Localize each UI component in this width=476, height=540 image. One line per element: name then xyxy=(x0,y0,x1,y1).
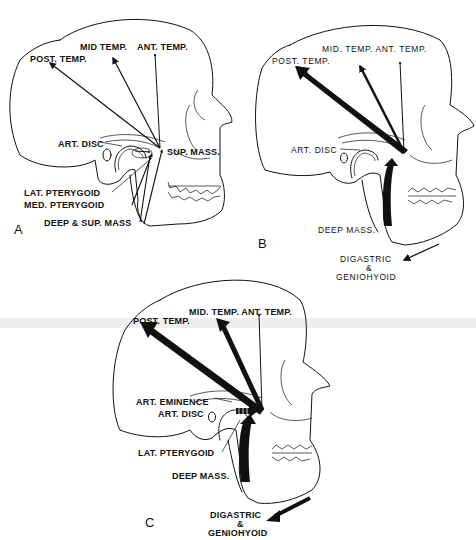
label-post-temp: POST. TEMP. xyxy=(30,54,87,64)
label-art-eminence: ART. EMINENCE xyxy=(136,397,209,407)
vector-lat-pterygoid xyxy=(135,151,150,152)
label-geniohyoid: GENIOHYOID xyxy=(208,528,268,538)
vector-digastric xyxy=(275,498,310,516)
label-mid-ant-temp: MID. TEMP. ANT. TEMP. xyxy=(189,307,292,317)
label-deep-sup-mass: DEEP & SUP. MASS xyxy=(44,218,131,228)
vector-deep-mass xyxy=(140,156,150,222)
label-digastric: DIGASTRIC xyxy=(210,510,262,520)
vector-deep-mass xyxy=(239,420,252,482)
label-mid-temp: MID TEMP. xyxy=(80,42,127,52)
panel-letter-b: B xyxy=(258,236,267,251)
leader-art-disc-b xyxy=(340,149,360,150)
vector-deep-mass xyxy=(383,164,394,226)
label-ant-temp: ANT. TEMP. xyxy=(137,42,188,52)
vector-post-temp xyxy=(50,63,160,148)
vector-mid-temp xyxy=(360,66,404,152)
label-deep-mass: DEEP MASS. xyxy=(318,225,376,235)
label-deep-mass: DEEP MASS. xyxy=(172,471,229,481)
vector-ant-temp xyxy=(259,314,262,410)
vector-ant-temp xyxy=(155,54,160,148)
vector-sup-mass xyxy=(144,150,162,224)
label-art-disc: ART. DISC xyxy=(158,409,204,419)
label-geniohyoid: GENIOHYOID xyxy=(336,272,396,282)
panel-a: POST. TEMP. MID TEMP. ANT. TEMP. ART. DI… xyxy=(10,19,232,237)
scan-band xyxy=(0,318,476,328)
label-art-disc: ART. DISC xyxy=(291,145,337,155)
label-mid-ant-temp: MID. TEMP. ANT. TEMP. xyxy=(322,44,427,54)
label-art-disc: ART. DISC xyxy=(58,139,104,149)
label-sup-mass: SUP. MASS. xyxy=(167,147,220,157)
label-post-temp: POST. TEMP. xyxy=(133,316,190,326)
arrowhead-deep-mass xyxy=(240,414,256,424)
panel-b: MID. TEMP. ANT. TEMP. POST. TEMP. ART. D… xyxy=(256,25,474,282)
vector-post-temp xyxy=(302,72,404,152)
panel-letter-c: C xyxy=(145,515,154,530)
label-med-pterygoid: MED. PTERYGOID xyxy=(24,200,105,210)
label-lat-pterygoid: LAT. PTERYGOID xyxy=(24,188,101,198)
vector-digastric xyxy=(404,244,439,260)
label-lat-pterygoid: LAT. PTERYGOID xyxy=(138,448,215,458)
label-post-temp: POST. TEMP. xyxy=(272,56,330,66)
muscle-vector-figure: POST. TEMP. MID TEMP. ANT. TEMP. ART. DI… xyxy=(0,0,476,540)
panel-letter-a: A xyxy=(14,222,23,237)
arrowhead-digastric xyxy=(266,510,280,522)
arrowhead-deep-mass xyxy=(384,158,398,166)
